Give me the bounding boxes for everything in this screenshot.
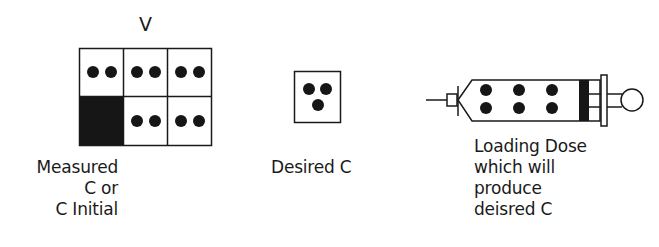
caption-line: produce: [474, 178, 587, 199]
syringe-icon: [426, 75, 643, 126]
caption-line: Measured: [0, 157, 118, 178]
hub: [447, 94, 457, 106]
volume-label: V: [139, 14, 152, 35]
desired-concentration-box: [295, 72, 341, 123]
filled-cell: [80, 97, 124, 146]
caption-line: Loading Dose: [474, 136, 587, 157]
measured-caption: Measured C or C Initial: [0, 157, 118, 220]
caption-line: C Initial: [0, 199, 118, 220]
flange: [601, 75, 607, 126]
volume-grid: [80, 49, 212, 146]
caption-line: C or: [0, 178, 118, 199]
caption-line: which will: [474, 157, 587, 178]
caption-line: deisred C: [474, 199, 587, 220]
plunger-ring: [621, 89, 643, 111]
desired-caption: Desired C: [271, 157, 351, 178]
loading-dose-caption: Loading Dose which will produce deisred …: [474, 136, 587, 220]
plunger-stopper: [579, 80, 589, 121]
barrel: [458, 80, 600, 121]
